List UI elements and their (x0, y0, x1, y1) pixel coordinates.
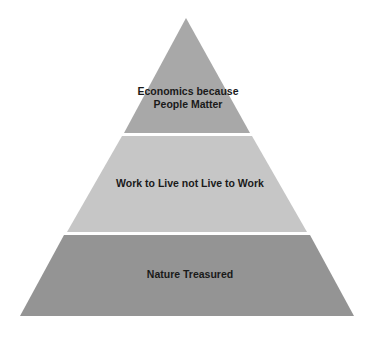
pyramid-shape (0, 0, 383, 339)
tier-bottom-label: Nature Treasured (80, 268, 300, 281)
pyramid-diagram: Economics because People Matter Work to … (0, 0, 383, 339)
pyramid-tier-top (124, 18, 250, 133)
tier-top-label: Economics because People Matter (136, 85, 240, 111)
tier-middle-label: Work to Live not Live to Work (80, 177, 300, 190)
